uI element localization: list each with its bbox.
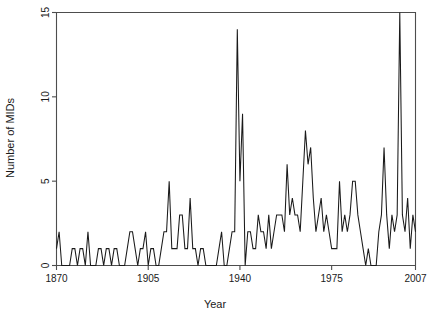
chart-background: [0, 0, 431, 318]
y-tick-label: 5: [40, 178, 51, 184]
y-tick-label: 15: [40, 7, 51, 19]
x-tick-label: 1870: [45, 273, 68, 284]
y-tick-label: 0: [40, 262, 51, 268]
x-tick-label: 1975: [321, 273, 344, 284]
x-tick-label: 1940: [229, 273, 252, 284]
x-tick-label: 1905: [137, 273, 160, 284]
y-tick-label: 10: [40, 91, 51, 103]
y-axis-title: Number of MIDs: [4, 97, 16, 178]
mids-time-series-chart: 051015 18701905194019752007 Year Number …: [0, 0, 431, 318]
x-axis-title: Year: [204, 298, 227, 310]
chart-canvas: 051015 18701905194019752007 Year Number …: [0, 0, 431, 318]
x-tick-label: 2007: [404, 273, 427, 284]
